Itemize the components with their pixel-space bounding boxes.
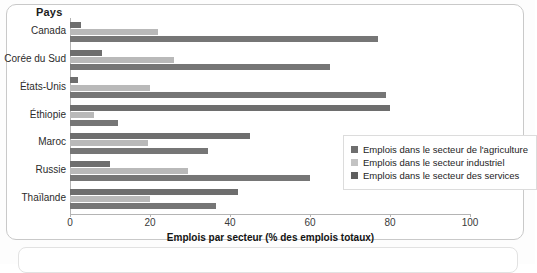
x-tick-label: 100 [462, 217, 479, 228]
bar-serv [70, 120, 118, 126]
x-tick-label: 40 [224, 217, 235, 228]
legend-swatch-icon [351, 146, 358, 153]
legend-item-label: Emplois dans le secteur industriel [363, 157, 505, 168]
bar-group [70, 22, 470, 42]
x-axis-title: Emplois par secteur (% des emplois totau… [70, 232, 471, 243]
legend-item: Emplois dans le secteur des services [351, 170, 528, 181]
bar-indu [70, 112, 94, 118]
bar-group [70, 189, 470, 209]
bar-agri [70, 77, 78, 83]
y-tick-label: Thaïlande [2, 192, 66, 203]
bar-indu [70, 196, 150, 202]
bar-group [70, 50, 470, 70]
y-tick-label: États-Unis [2, 81, 66, 92]
y-axis-tick-labels: CanadaCorée du SudÉtats-UnisÉthiopieMaro… [0, 18, 66, 214]
x-axis-ticks: 020406080100 [0, 214, 535, 232]
x-tick-label: 0 [67, 217, 73, 228]
bar-agri [70, 133, 250, 139]
bar-serv [70, 92, 386, 98]
bar-serv [70, 36, 378, 42]
x-tick-label: 80 [384, 217, 395, 228]
bar-serv [70, 175, 310, 181]
legend-item: Emplois dans le secteur industriel [351, 157, 528, 168]
bar-agri [70, 161, 110, 167]
bar-indu [70, 57, 174, 63]
x-tick-label: 60 [304, 217, 315, 228]
bar-agri [70, 105, 390, 111]
bar-group [70, 105, 470, 125]
legend-swatch-icon [351, 172, 358, 179]
y-axis-title: Pays [36, 6, 63, 18]
legend-item-label: Emplois dans le secteur de l'agriculture [363, 144, 528, 155]
bar-indu [70, 29, 158, 35]
bar-agri [70, 189, 238, 195]
legend-item-label: Emplois dans le secteur des services [363, 170, 519, 181]
bar-indu [70, 168, 188, 174]
bar-agri [70, 50, 102, 56]
bar-indu [70, 140, 148, 146]
y-tick-label: Russie [2, 164, 66, 175]
y-tick-label: Canada [2, 25, 66, 36]
x-tick-label: 20 [144, 217, 155, 228]
y-tick-label: Corée du Sud [2, 53, 66, 64]
bar-indu [70, 85, 150, 91]
bar-serv [70, 203, 216, 209]
y-tick-label: Éthiopie [2, 109, 66, 120]
legend-swatch-icon [351, 159, 358, 166]
bar-serv [70, 148, 208, 154]
bar-serv [70, 64, 330, 70]
legend-item: Emplois dans le secteur de l'agriculture [351, 144, 528, 155]
adjacent-panel-fragment [18, 247, 518, 273]
y-tick-label: Maroc [2, 136, 66, 147]
bar-group [70, 77, 470, 97]
bar-agri [70, 22, 81, 28]
chart-legend: Emplois dans le secteur de l'agriculture… [343, 135, 537, 190]
